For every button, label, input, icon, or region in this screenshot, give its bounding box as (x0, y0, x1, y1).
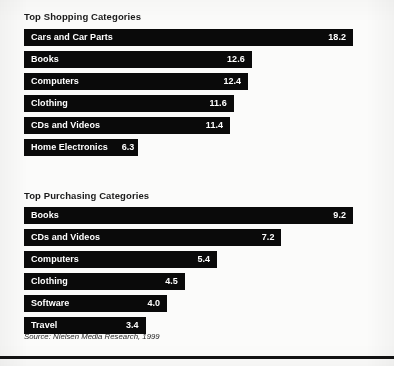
bar-category-label: Software (31, 295, 69, 312)
bar-value-label: 5.4 (197, 251, 210, 268)
bar-value-label: 4.5 (165, 273, 178, 290)
source-note: Source: Nielsen Media Research, 1999 (24, 332, 160, 341)
bar: Clothing4.5 (24, 273, 185, 290)
bar: Cars and Car Parts18.2 (24, 29, 353, 46)
bar-value-label: 9.2 (333, 207, 346, 224)
bar-value-label: 11.6 (209, 95, 226, 112)
bar-category-label: Books (31, 51, 59, 68)
bar-value-label: 12.4 (223, 73, 241, 90)
bar: Computers12.4 (24, 73, 248, 90)
bar: Home Electronics6.3 (24, 139, 138, 156)
bar: CDs and Videos7.2 (24, 229, 281, 246)
bar-category-label: CDs and Videos (31, 229, 100, 246)
bar-category-label: Cars and Car Parts (31, 29, 113, 46)
bar-category-label: Home Electronics (31, 139, 108, 156)
bar: Books12.6 (24, 51, 252, 68)
bar: CDs and Videos11.4 (24, 117, 230, 134)
figure-top-categories: Top Shopping Categories Cars and Car Par… (0, 0, 394, 366)
chart-title-shopping: Top Shopping Categories (24, 11, 141, 22)
bar: Clothing11.6 (24, 95, 234, 112)
bar-category-label: Computers (31, 73, 79, 90)
bar: Books9.2 (24, 207, 353, 224)
bar-category-label: CDs and Videos (31, 117, 100, 134)
bar-category-label: Computers (31, 251, 79, 268)
bar-category-label: Clothing (31, 273, 68, 290)
bar-category-label: Books (31, 207, 59, 224)
bar-category-label: Clothing (31, 95, 68, 112)
bar-value-label: 12.6 (227, 51, 245, 68)
bar: Software4.0 (24, 295, 167, 312)
bar-value-label: 18.2 (328, 29, 346, 46)
chart-title-purchasing: Top Purchasing Categories (24, 190, 149, 201)
bar-value-label: 11.4 (206, 117, 223, 134)
bottom-rule (0, 356, 394, 359)
bar-value-label: 4.0 (147, 295, 160, 312)
bar: Computers5.4 (24, 251, 217, 268)
bar-value-label: 7.2 (262, 229, 275, 246)
bar-value-label: 6.3 (122, 139, 135, 156)
